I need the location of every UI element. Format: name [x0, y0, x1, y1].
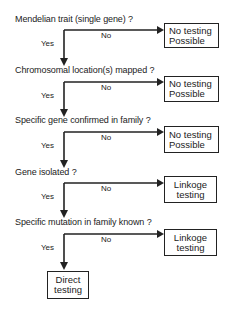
yes-label-3: Yes: [41, 141, 54, 150]
outcome-box-direct-testing: Direct testing: [47, 271, 89, 299]
yes-label-5: Yes: [41, 243, 54, 252]
outcome-line: Possible: [165, 89, 218, 99]
outcome-line: testing: [165, 190, 216, 200]
outcome-line: testing: [165, 243, 216, 253]
outcome-box-no-testing-3: No testing Possible: [164, 126, 219, 153]
question-specific-mutation-known: Specific mutation in family known ?: [15, 217, 152, 227]
question-chromosomal-location: Chromosomal location(s) mapped ?: [15, 65, 154, 75]
outcome-line: Possible: [165, 36, 218, 46]
question-specific-gene-confirmed: Specific gene confirmed in family ?: [15, 115, 151, 125]
no-label-2: No: [101, 83, 111, 92]
outcome-box-no-testing-1: No testing Possible: [164, 23, 219, 48]
no-label-3: No: [101, 133, 111, 142]
no-label-4: No: [101, 184, 111, 193]
outcome-box-linkage-testing-1: Linkoge testing: [164, 176, 217, 203]
yes-label-4: Yes: [41, 192, 54, 201]
outcome-line: testing: [48, 285, 88, 295]
outcome-box-no-testing-2: No testing Possible: [164, 76, 219, 102]
yes-label-1: Yes: [41, 39, 54, 48]
outcome-box-linkage-testing-2: Linkoge testing: [164, 229, 217, 256]
no-label-5: No: [101, 235, 111, 244]
question-mendelian-trait: Mendelian trait (single gene) ?: [15, 14, 133, 24]
question-gene-isolated: Gene isolated ?: [15, 167, 77, 177]
outcome-line: Possible: [165, 140, 218, 150]
yes-label-2: Yes: [41, 91, 54, 100]
no-label-1: No: [101, 31, 111, 40]
